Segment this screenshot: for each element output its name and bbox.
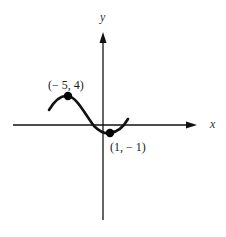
point-local-min bbox=[106, 129, 114, 137]
point-label-local-min: (1, − 1) bbox=[110, 141, 146, 153]
y-axis-label: y bbox=[100, 11, 105, 23]
point-local-max bbox=[64, 92, 72, 100]
y-axis-arrow-icon bbox=[100, 32, 107, 43]
point-label-local-max: (− 5, 4) bbox=[48, 79, 84, 91]
x-axis-arrow-icon bbox=[186, 122, 197, 129]
x-axis-label: x bbox=[210, 118, 215, 130]
function-curve bbox=[49, 96, 128, 133]
coordinate-graph bbox=[0, 0, 226, 237]
